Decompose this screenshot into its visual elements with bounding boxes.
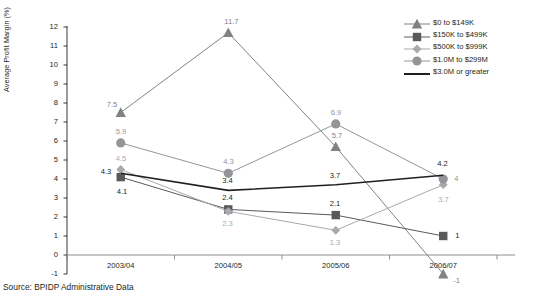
line-marker bbox=[404, 66, 430, 78]
y-tick-label: 6 bbox=[36, 136, 58, 145]
y-tick-label: 10 bbox=[36, 60, 58, 69]
diamond-marker bbox=[404, 41, 430, 53]
series--1-0m-to-299m bbox=[116, 119, 448, 183]
data-point-label: 7.5 bbox=[107, 100, 118, 109]
y-tick-label: 3 bbox=[36, 193, 58, 202]
legend-item[interactable]: $150K to $499K bbox=[404, 28, 489, 40]
circle-marker bbox=[404, 53, 430, 65]
data-point-label: 2.1 bbox=[330, 199, 341, 208]
data-point-label: 4 bbox=[454, 174, 458, 183]
legend-label: $1.0M to $299M bbox=[433, 55, 488, 64]
y-tick-label: 9 bbox=[36, 79, 58, 88]
series--150k-to-499k bbox=[117, 173, 448, 240]
legend-item[interactable]: $0 to $149K bbox=[404, 16, 489, 28]
data-point-label: 3.4 bbox=[222, 176, 233, 185]
data-point-label: -1 bbox=[453, 276, 460, 285]
y-tick-label: -1 bbox=[36, 269, 58, 278]
x-tick-label: 2004/05 bbox=[188, 261, 268, 270]
data-point-label: 4.2 bbox=[437, 159, 448, 168]
x-tick-label: 2003/04 bbox=[81, 261, 161, 270]
y-tick-label: 4 bbox=[36, 174, 58, 183]
y-tick-label: 7 bbox=[36, 117, 58, 126]
data-point-label: 2.4 bbox=[222, 193, 233, 202]
profit-margin-line-chart: Average Profit Margin (%) $0 to $149K$15… bbox=[0, 0, 556, 300]
series--0-to-149k bbox=[116, 28, 449, 279]
data-point-label: 4.1 bbox=[117, 187, 128, 196]
x-tick-label: 2005/06 bbox=[296, 261, 376, 270]
data-point-label: 4.3 bbox=[101, 167, 112, 176]
data-point-label: 5.9 bbox=[116, 127, 127, 136]
legend-item[interactable]: $500K to $999K bbox=[404, 41, 489, 53]
y-tick-label: 5 bbox=[36, 155, 58, 164]
data-point-label: 4.5 bbox=[116, 154, 127, 163]
data-point-label: 6.9 bbox=[331, 108, 342, 117]
series--500k-to-999k bbox=[116, 165, 447, 235]
x-tick-label: 2006/07 bbox=[403, 261, 483, 270]
data-point-label: 11.7 bbox=[224, 17, 238, 26]
triangle-marker bbox=[404, 16, 430, 28]
y-tick-label: 0 bbox=[36, 250, 58, 259]
y-tick-label: 1 bbox=[36, 231, 58, 240]
y-tick-label: 12 bbox=[36, 22, 58, 31]
data-point-label: 1.3 bbox=[330, 238, 341, 247]
data-point-label: 5.7 bbox=[332, 131, 343, 140]
legend-item[interactable]: $3.0M or greater bbox=[404, 66, 489, 78]
legend-item[interactable]: $1.0M to $299M bbox=[404, 53, 489, 65]
data-point-label: 3.7 bbox=[438, 195, 449, 204]
data-point-label: 3.7 bbox=[330, 171, 341, 180]
legend-label: $500K to $999K bbox=[433, 42, 487, 51]
square-marker bbox=[404, 29, 430, 41]
source-note: Source: BPIDP Administrative Data bbox=[3, 282, 134, 292]
legend-label: $150K to $499K bbox=[433, 30, 487, 39]
data-point-label: 1 bbox=[455, 231, 459, 240]
y-tick-label: 2 bbox=[36, 212, 58, 221]
data-point-label: 2.3 bbox=[222, 219, 233, 228]
y-tick-label: 8 bbox=[36, 98, 58, 107]
legend-label: $3.0M or greater bbox=[433, 67, 489, 76]
data-point-label: 4.3 bbox=[223, 157, 234, 166]
y-tick-label: 11 bbox=[36, 41, 58, 50]
legend-label: $0 to $149K bbox=[433, 18, 474, 27]
chart-legend: $0 to $149K$150K to $499K$500K to $999K$… bbox=[404, 16, 489, 78]
